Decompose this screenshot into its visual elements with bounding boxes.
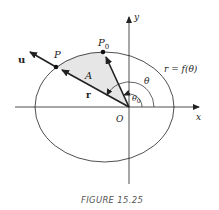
label-u: u [18,54,25,65]
point-p [54,65,59,70]
polar-area-diagram: u P P0 A r O x y θ θ0 r = f(θ) FIGURE 15… [0,0,219,210]
figure-caption: FIGURE 15.25 [81,195,143,205]
label-y-axis: y [133,12,140,22]
label-r: r [86,90,91,100]
label-area-a: A [84,70,92,81]
label-curve-equation: r = f(θ) [164,64,198,74]
label-theta: θ [144,76,150,86]
label-theta0: θ0 [132,94,141,104]
label-x-axis: x [196,112,201,122]
vector-u [30,52,56,67]
label-origin: O [116,114,124,124]
label-p0: P0 [97,37,109,51]
label-p: P [53,49,61,60]
